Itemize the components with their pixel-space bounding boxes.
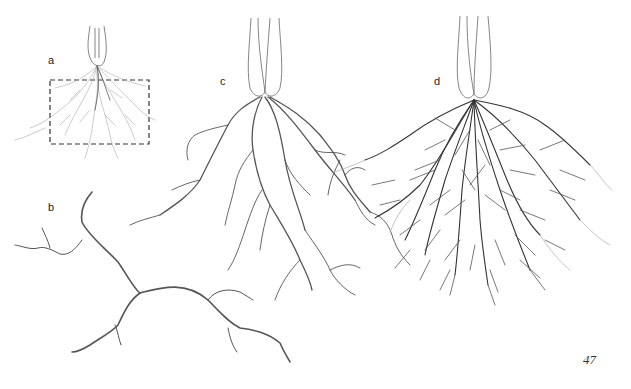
panel-d-drawing <box>335 16 612 305</box>
panel-a-drawing <box>15 26 155 158</box>
panel-label-d: d <box>434 75 440 87</box>
panel-label-a: a <box>48 54 54 66</box>
panel-label-c: c <box>220 75 226 87</box>
page-number: 47 <box>583 352 596 368</box>
root-illustration <box>0 0 631 389</box>
panel-label-b: b <box>48 201 54 213</box>
book-page: a b c d 47 <box>0 0 631 389</box>
